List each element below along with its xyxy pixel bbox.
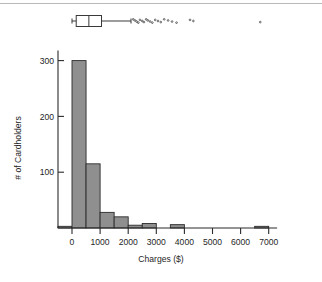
boxplot-outlier-point — [143, 21, 145, 23]
y-axis-tick-label: 300 — [40, 56, 55, 66]
x-axis-tick-label: 1000 — [91, 237, 110, 247]
y-axis-title: # of Cardholders — [13, 116, 23, 180]
boxplot-outlier-point — [176, 22, 178, 24]
y-axis-tick-label: 100 — [40, 167, 55, 177]
x-axis-title: Charges ($) — [138, 254, 184, 264]
histogram-bar — [100, 212, 114, 228]
boxplot-outlier-point — [154, 19, 156, 21]
histogram-bar — [142, 224, 156, 228]
boxplot-outlier-point — [157, 20, 159, 22]
boxplot-outlier-point — [152, 22, 154, 24]
histogram-bars — [58, 61, 269, 228]
x-axis-tick-label: 6000 — [231, 237, 250, 247]
boxplot-outlier-point — [259, 21, 261, 23]
x-axis-tick-label: 2000 — [119, 237, 138, 247]
boxplot-group — [72, 16, 261, 27]
figure-container: 100200300 01000200030004000500060007000 … — [0, 0, 322, 282]
boxplot-outlier-point — [137, 22, 139, 24]
boxplot-outlier-point — [171, 21, 173, 23]
boxplot-outlier-point — [163, 19, 165, 21]
y-axis-tick-label: 200 — [40, 112, 55, 122]
boxplot-outlier-point — [189, 19, 191, 21]
boxplot-outlier-points — [132, 19, 261, 24]
x-axis-tick-label: 5000 — [203, 237, 222, 247]
x-axis-ticks — [72, 228, 269, 234]
y-axis-ticks — [58, 61, 64, 173]
boxplot-outlier-point — [193, 20, 195, 22]
boxplot-outlier-point — [149, 21, 151, 23]
histogram-bar — [72, 61, 86, 228]
histogram-bar — [114, 217, 128, 228]
x-axis-tick-label: 4000 — [175, 237, 194, 247]
histogram-bar — [86, 164, 100, 228]
x-axis-tick-label: 7000 — [259, 237, 278, 247]
boxplot-outlier-point — [167, 20, 169, 22]
chart-canvas: 100200300 01000200030004000500060007000 … — [0, 0, 322, 282]
boxplot-outlier-point — [147, 20, 149, 22]
boxplot-outlier-point — [160, 21, 162, 23]
boxplot-outlier-point — [139, 19, 141, 21]
y-axis-tick-labels: 100200300 — [40, 56, 55, 178]
x-axis-tick-label: 3000 — [147, 237, 166, 247]
x-axis-tick-label: 0 — [70, 237, 75, 247]
x-axis-tick-labels: 01000200030004000500060007000 — [70, 237, 279, 247]
